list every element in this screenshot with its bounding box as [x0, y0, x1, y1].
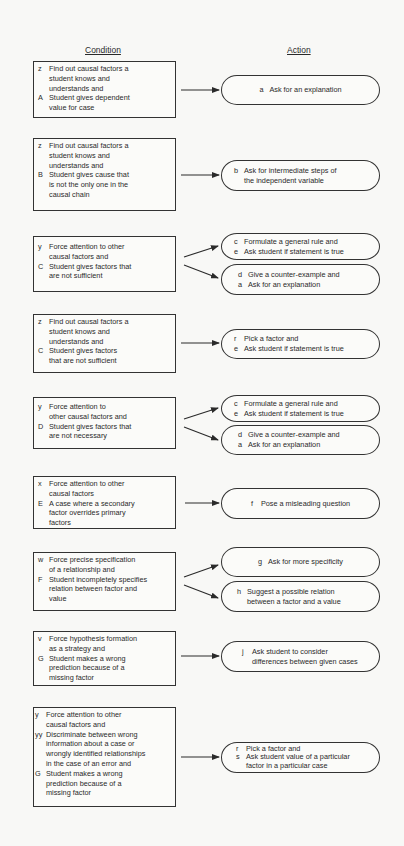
line-text: causal factors: [49, 489, 172, 499]
line-label: [38, 356, 49, 366]
line-text: between a factor and a value: [247, 597, 375, 607]
line-label: [38, 74, 49, 84]
line-label: [38, 103, 49, 113]
line-label: d: [238, 430, 248, 440]
line-label: a: [238, 440, 248, 450]
line-label: y: [38, 242, 49, 252]
line-text: Student makes a wrong: [49, 654, 172, 664]
action-pill-3b: dGive a counter-example and aAsk for an …: [221, 264, 380, 295]
line-label: x: [38, 479, 49, 489]
line-label: [237, 597, 247, 607]
line-text: the independent variable: [244, 176, 375, 186]
action-pill-3a: cFormulate a general rule and eAsk stude…: [221, 233, 380, 260]
line-text: value: [49, 594, 172, 604]
line-text: Find out causal factors a: [49, 141, 172, 151]
line-text: A case where a secondary: [49, 499, 172, 509]
line-text: factor in a particular case: [246, 762, 375, 771]
line-label: [35, 759, 46, 769]
action-pill-5b: dGive a counter-example and aAsk for an …: [221, 425, 380, 455]
line-label: [38, 161, 49, 171]
line-text: understands and: [49, 161, 172, 171]
arrow-3a: [184, 246, 218, 257]
line-text: Ask for an explanation: [269, 85, 341, 95]
line-label: f: [251, 499, 261, 509]
line-text: missing factor: [46, 788, 172, 798]
line-label: w: [38, 555, 49, 565]
condition-box-4: zFind out causal factors a student knows…: [33, 314, 176, 373]
line-label: A: [38, 93, 49, 103]
line-text: that are not sufficient: [49, 356, 172, 366]
line-label: G: [35, 769, 46, 779]
line-label: y: [38, 402, 49, 412]
line-text: Formulate a general rule and: [244, 237, 375, 247]
line-text: Student makes a wrong: [46, 769, 172, 779]
line-label: [38, 584, 49, 594]
line-label: [38, 84, 49, 94]
line-label: D: [38, 422, 49, 432]
line-label: c: [234, 237, 244, 247]
line-label: v: [38, 634, 49, 644]
line-text: Student gives cause that: [49, 170, 172, 180]
line-text: Give a counter-example and: [248, 270, 375, 280]
line-text: Ask student if statement is true: [244, 247, 375, 257]
line-label: [35, 739, 46, 749]
action-pill-5a: cFormulate a general rule and eAsk stude…: [221, 395, 380, 422]
line-label: F: [38, 575, 49, 585]
line-label: [35, 720, 46, 730]
line-text: of a relationship and: [49, 565, 172, 575]
line-text: factor overrides primary: [49, 508, 172, 518]
line-label: G: [38, 654, 49, 664]
line-label: [234, 176, 244, 186]
line-label: E: [38, 499, 49, 509]
line-text: information about a case or: [46, 739, 172, 749]
line-label: z: [38, 64, 49, 74]
line-label: h: [237, 587, 247, 597]
condition-box-8: vForce hypothesis formation as a strateg…: [33, 631, 176, 686]
line-label: [38, 673, 49, 683]
line-label: [35, 779, 46, 789]
line-label: z: [38, 141, 49, 151]
line-label: e: [234, 409, 244, 419]
line-text: Ask student if statement is true: [244, 344, 375, 354]
line-label: C: [38, 346, 49, 356]
line-text: Find out causal factors a: [49, 64, 172, 74]
condition-header: Condition: [85, 45, 121, 55]
line-text: Force attention to other: [49, 242, 172, 252]
line-text: student knows and: [49, 327, 172, 337]
line-text: wrongly identified relationships: [46, 749, 172, 759]
line-text: is not the only one in the: [49, 180, 172, 190]
line-text: Find out causal factors a: [49, 317, 172, 327]
line-label: [35, 749, 46, 759]
arrow-5a: [184, 408, 218, 419]
line-text: Give a counter-example and: [248, 430, 375, 440]
line-label: [38, 518, 49, 528]
line-text: understands and: [49, 337, 172, 347]
line-label: [38, 327, 49, 337]
line-label: [38, 337, 49, 347]
condition-box-3: yForce attention to other causal factors…: [33, 236, 176, 292]
line-text: Pick a factor and: [244, 334, 375, 344]
action-pill-1a: aAsk for an explanation: [221, 75, 380, 105]
line-text: as a strategy and: [49, 644, 172, 654]
action-pill-7a: gAsk for more specificity: [221, 547, 380, 577]
line-text: Student incompletely specifies: [49, 575, 172, 585]
line-text: Ask for intermediate steps of: [244, 166, 375, 176]
condition-box-5: yForce attention to other causal factors…: [33, 397, 176, 449]
line-label: d: [238, 270, 248, 280]
line-text: Formulate a general rule and: [244, 399, 375, 409]
line-text: prediction because of a: [46, 779, 172, 789]
line-label: e: [234, 247, 244, 257]
action-pill-8a: jAsk student to consider differences bet…: [221, 641, 380, 672]
line-label: a: [238, 280, 248, 290]
line-text: Student gives factors: [49, 346, 172, 356]
line-text: Suggest a possible relation: [247, 587, 375, 597]
line-text: are not necessary: [49, 431, 172, 441]
line-label: [38, 431, 49, 441]
line-text: factors: [49, 518, 172, 528]
line-text: Force hypothesis formation: [49, 634, 172, 644]
line-label: [38, 508, 49, 518]
line-text: are not sufficient: [49, 271, 172, 281]
line-text: missing factor: [49, 673, 172, 683]
line-text: prediction because of a: [49, 663, 172, 673]
line-text: Force attention to other: [46, 710, 172, 720]
